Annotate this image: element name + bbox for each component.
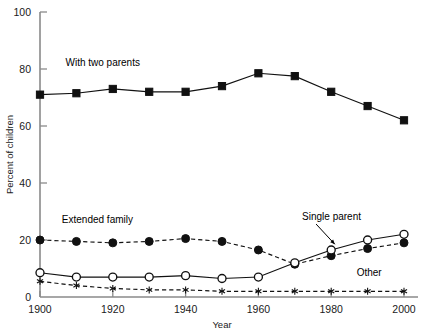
y-tick-label: 100 [13,6,31,18]
data-point-marker [364,102,371,109]
data-point-marker [400,239,408,247]
data-point-marker [72,273,80,281]
x-tick-label: 1980 [320,303,344,315]
series-annotation-label: Extended family [62,214,133,225]
data-point-marker [254,273,262,281]
data-point-marker [109,239,117,247]
series-annotation-label: Other [357,267,383,278]
chart-series [36,235,408,269]
data-point-marker [36,269,44,277]
data-point-marker [182,88,189,95]
y-tick-label: 40 [19,177,31,189]
data-point-marker [182,272,190,280]
x-tick-label: 1960 [247,303,271,315]
series-line [40,73,404,120]
y-tick-label: 20 [19,234,31,246]
data-point-marker [109,85,116,92]
chart-container: 020406080100190019201940196019802000Year… [0,0,437,330]
y-tick-label: 0 [25,291,31,303]
data-point-marker [36,236,44,244]
data-point-marker [255,70,262,77]
line-chart: 020406080100190019201940196019802000Year… [0,0,437,330]
data-point-marker [36,91,43,98]
data-point-marker [364,245,372,253]
data-point-marker [145,237,153,245]
data-point-marker [145,273,153,281]
data-point-marker [400,117,407,124]
data-point-marker [291,259,299,267]
data-point-marker [218,237,226,245]
x-axis-title: Year [212,319,231,330]
data-point-marker [72,237,80,245]
data-point-marker [182,235,190,243]
data-point-marker [109,273,117,281]
data-point-marker [73,90,80,97]
x-tick-label: 2000 [392,303,416,315]
data-point-marker [218,274,226,282]
y-axis-title: Percent of children [4,115,15,194]
data-point-marker [364,236,372,244]
series-annotation-label: Single parent [302,211,361,222]
chart-series [36,70,407,124]
x-tick-label: 1920 [101,303,125,315]
data-point-marker [254,246,262,254]
data-point-marker [327,246,335,254]
x-tick-label: 1900 [28,303,52,315]
chart-axes: 020406080100190019201940196019802000Year… [4,6,418,330]
y-tick-label: 80 [19,63,31,75]
y-tick-label: 60 [19,120,31,132]
chart-series-group [36,70,408,295]
data-point-marker [400,230,408,238]
data-point-marker [218,83,225,90]
series-annotation-label: With two parents [65,57,139,68]
data-point-marker [146,88,153,95]
data-point-marker [328,88,335,95]
x-tick-label: 1940 [174,303,198,315]
data-point-marker [291,73,298,80]
